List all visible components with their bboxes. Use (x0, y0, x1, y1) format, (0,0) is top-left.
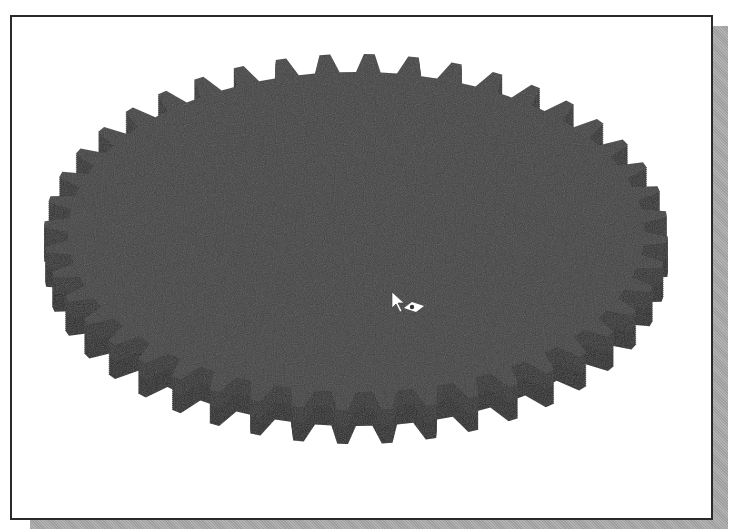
graphics-viewport[interactable] (0, 0, 738, 529)
